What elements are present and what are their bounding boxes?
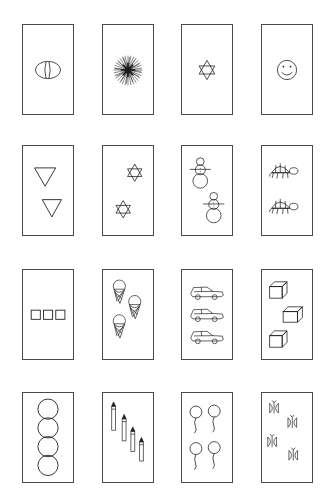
card-3-4[interactable] <box>261 269 313 360</box>
egg-icon <box>23 25 73 114</box>
square-icon <box>23 270 73 359</box>
card-2-2[interactable] <box>102 145 154 236</box>
card-3-2[interactable] <box>102 269 154 360</box>
card-3-1[interactable] <box>22 269 74 360</box>
balloon-icon <box>182 393 232 482</box>
triangle-down-icon <box>23 146 73 235</box>
ice-cream-cone-icon <box>103 270 153 359</box>
six-point-star-icon <box>182 25 232 114</box>
card-grid <box>0 0 330 497</box>
six-point-star-icon <box>103 146 153 235</box>
butterfly-icon <box>262 393 312 482</box>
snowman-icon <box>182 146 232 235</box>
card-4-1[interactable] <box>22 392 74 483</box>
turtle-icon <box>262 146 312 235</box>
card-4-4[interactable] <box>261 392 313 483</box>
card-4-3[interactable] <box>181 392 233 483</box>
card-2-4[interactable] <box>261 145 313 236</box>
pencil-icon <box>103 393 153 482</box>
smiley-face-icon <box>262 25 312 114</box>
starburst-icon <box>103 25 153 114</box>
cube-icon <box>262 270 312 359</box>
card-1-3[interactable] <box>181 24 233 115</box>
card-4-2[interactable] <box>102 392 154 483</box>
car-icon <box>182 270 232 359</box>
card-2-1[interactable] <box>22 145 74 236</box>
card-2-3[interactable] <box>181 145 233 236</box>
card-1-1[interactable] <box>22 24 74 115</box>
circle-icon <box>23 393 73 482</box>
card-1-2[interactable] <box>102 24 154 115</box>
card-3-3[interactable] <box>181 269 233 360</box>
card-1-4[interactable] <box>261 24 313 115</box>
